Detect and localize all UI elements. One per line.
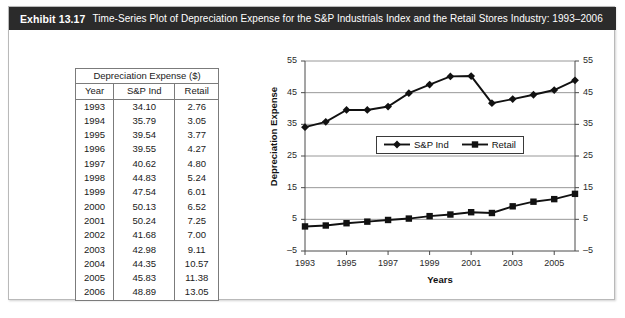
- x-axis-tick-label: 2005: [534, 258, 574, 268]
- exhibit-number: Exhibit 13.17: [20, 13, 86, 25]
- data-point-marker: [406, 215, 412, 221]
- data-point-marker: [530, 91, 538, 99]
- data-point-marker: [446, 73, 454, 81]
- table-row: 199947.546.01: [76, 185, 219, 199]
- table-row: 200444.3510.57: [76, 257, 219, 271]
- cell-year: 1996: [76, 142, 114, 156]
- cell-sp-ind: 50.13: [114, 200, 175, 214]
- x-axis-tick-label: 1995: [327, 258, 367, 268]
- cell-year: 2000: [76, 200, 114, 214]
- cell-retail: 3.05: [175, 114, 219, 128]
- cell-year: 1999: [76, 185, 114, 199]
- legend-entry-s-p-ind: S&P Ind: [384, 139, 449, 150]
- square-marker-icon: [462, 139, 488, 150]
- table-row: 200545.8311.38: [76, 271, 219, 285]
- data-point-marker: [509, 95, 517, 103]
- cell-year: 2006: [76, 285, 114, 300]
- cell-retail: 7.00: [175, 228, 219, 242]
- legend-label: S&P Ind: [414, 139, 449, 150]
- data-point-marker: [364, 218, 370, 224]
- cell-year: 2005: [76, 271, 114, 285]
- cell-year: 1994: [76, 114, 114, 128]
- cell-sp-ind: 45.83: [114, 271, 175, 285]
- cell-retail: 6.52: [175, 200, 219, 214]
- data-point-marker: [571, 76, 579, 84]
- cell-retail: 2.76: [175, 99, 219, 114]
- cell-year: 1998: [76, 171, 114, 185]
- cell-sp-ind: 35.79: [114, 114, 175, 128]
- table-row: 199639.554.27: [76, 142, 219, 156]
- cell-sp-ind: 44.35: [114, 257, 175, 271]
- y-axis-tick-label-left: 35: [271, 118, 297, 128]
- depreciation-data-table: Depreciation Expense ($) YearS&P IndReta…: [75, 68, 219, 301]
- table-row: 199539.543.77: [76, 128, 219, 142]
- exhibit-header: Exhibit 13.17 Time-Series Plot of Deprec…: [9, 7, 616, 30]
- table-header-row: YearS&P IndRetail: [76, 84, 219, 99]
- cell-sp-ind: 39.55: [114, 142, 175, 156]
- cell-retail: 7.25: [175, 214, 219, 228]
- table-row: 200241.687.00: [76, 228, 219, 242]
- cell-year: 2004: [76, 257, 114, 271]
- cell-retail: 13.05: [175, 285, 219, 300]
- table-caption: Depreciation Expense ($): [76, 69, 219, 84]
- table-row: 200050.136.52: [76, 200, 219, 214]
- cell-sp-ind: 34.10: [114, 99, 175, 114]
- data-point-marker: [323, 222, 329, 228]
- x-axis-tick-label: 2003: [493, 258, 533, 268]
- cell-year: 1997: [76, 157, 114, 171]
- time-series-chart: Depreciation Expense Years –5–5551515252…: [257, 53, 607, 293]
- y-axis-tick-label-right: –5: [583, 245, 609, 255]
- plot-canvas: [257, 53, 607, 268]
- table-row: 200150.247.25: [76, 214, 219, 228]
- x-axis-tick-label: 1993: [285, 258, 325, 268]
- cell-sp-ind: 50.24: [114, 214, 175, 228]
- table-row: 200648.8913.05: [76, 285, 219, 300]
- y-axis-tick-label-left: 15: [271, 182, 297, 192]
- data-point-marker: [385, 217, 391, 223]
- y-axis-tick-label-right: 5: [583, 213, 609, 223]
- y-axis-tick-label-right: 55: [583, 55, 609, 65]
- column-header-s-p-ind: S&P Ind: [114, 84, 175, 99]
- cell-retail: 4.80: [175, 157, 219, 171]
- data-point-marker: [572, 191, 578, 197]
- exhibit-card: Exhibit 13.17 Time-Series Plot of Deprec…: [8, 6, 615, 300]
- y-axis-tick-label-left: 55: [271, 55, 297, 65]
- data-point-marker: [363, 106, 371, 114]
- y-axis-tick-label-right: 35: [583, 118, 609, 128]
- exhibit-title: Time-Series Plot of Depreciation Expense…: [93, 13, 603, 24]
- data-point-marker: [426, 213, 432, 219]
- cell-sp-ind: 47.54: [114, 185, 175, 199]
- cell-retail: 9.11: [175, 243, 219, 257]
- cell-retail: 11.38: [175, 271, 219, 285]
- diamond-marker-icon: [384, 139, 410, 150]
- cell-year: 2003: [76, 243, 114, 257]
- cell-sp-ind: 42.98: [114, 243, 175, 257]
- x-axis-title: Years: [305, 274, 575, 285]
- cell-sp-ind: 44.83: [114, 171, 175, 185]
- table-row: 199844.835.24: [76, 171, 219, 185]
- cell-year: 2001: [76, 214, 114, 228]
- cell-retail: 3.77: [175, 128, 219, 142]
- cell-retail: 4.27: [175, 142, 219, 156]
- legend-label: Retail: [492, 139, 516, 150]
- data-point-marker: [551, 196, 557, 202]
- table-row: 199334.102.76: [76, 99, 219, 114]
- cell-year: 1995: [76, 128, 114, 142]
- data-point-marker: [489, 210, 495, 216]
- column-header-year: Year: [76, 84, 114, 99]
- cell-retail: 5.24: [175, 171, 219, 185]
- y-axis-tick-label-left: 45: [271, 87, 297, 97]
- series-line-s-p-ind: [305, 76, 575, 127]
- data-point-marker: [468, 209, 474, 215]
- x-axis-tick-label: 1999: [410, 258, 450, 268]
- y-axis-tick-label-left: 25: [271, 150, 297, 160]
- y-axis-tick-label-left: –5: [271, 245, 297, 255]
- cell-year: 2002: [76, 228, 114, 242]
- y-axis-tick-label-right: 45: [583, 87, 609, 97]
- y-axis-tick-label-right: 15: [583, 182, 609, 192]
- data-point-marker: [530, 198, 536, 204]
- table-row: 199435.793.05: [76, 114, 219, 128]
- data-point-marker: [302, 223, 308, 229]
- table-row: 199740.624.80: [76, 157, 219, 171]
- data-point-marker: [509, 203, 515, 209]
